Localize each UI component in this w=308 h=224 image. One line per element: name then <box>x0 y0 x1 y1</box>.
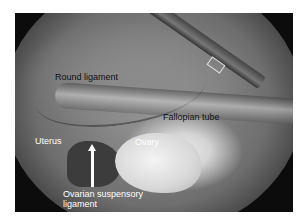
label-fallopian-tube: Fallopian tube <box>163 112 220 122</box>
label-ovarian-suspensory-ligament-line1: Ovarian suspensory <box>63 189 143 199</box>
laparoscopic-photo: Round ligament Fallopian tube Uterus Ova… <box>15 13 293 212</box>
label-round-ligament: Round ligament <box>55 72 118 82</box>
up-arrow-icon <box>91 150 94 187</box>
label-ovarian-suspensory-ligament-line2: ligament <box>63 199 97 209</box>
label-ovary: Ovary <box>135 137 159 147</box>
label-uterus: Uterus <box>35 136 62 146</box>
